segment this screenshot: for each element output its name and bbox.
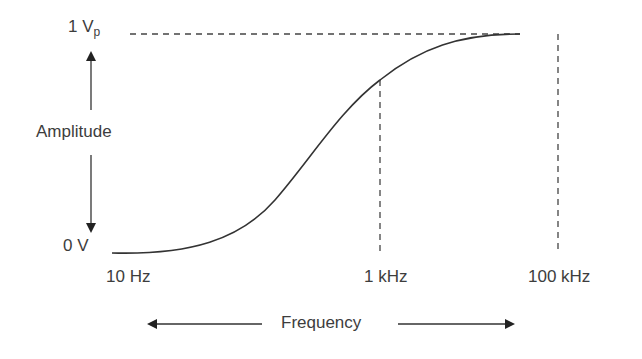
amplitude-axis-label: Amplitude (36, 122, 112, 142)
tick-label-10hz: 10 Hz (106, 267, 150, 287)
zero-volt-label: 0 V (63, 236, 89, 256)
max-amplitude-text: 1 V (68, 17, 94, 36)
tick-label-1khz: 1 kHz (364, 267, 407, 287)
max-amplitude-subscript: p (94, 25, 101, 39)
response-curve (112, 34, 520, 253)
max-amplitude-label: 1 Vp (68, 17, 100, 39)
frequency-axis-label: Frequency (281, 313, 361, 333)
tick-label-100khz: 100 kHz (528, 267, 590, 287)
frequency-response-diagram (0, 0, 642, 359)
